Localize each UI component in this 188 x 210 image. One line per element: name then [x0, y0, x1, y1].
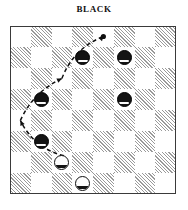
page-title: BLACK [0, 4, 188, 14]
checkers-diagram: BLACK [0, 0, 188, 210]
black-piece-2[interactable] [117, 50, 132, 65]
white-piece-1[interactable] [54, 155, 69, 170]
white-piece-2[interactable] [75, 176, 90, 191]
white-checker-icon [75, 176, 90, 191]
black-piece-3[interactable] [34, 92, 49, 107]
black-checker-icon [34, 92, 49, 107]
black-piece-4[interactable] [117, 92, 132, 107]
black-piece-5[interactable] [34, 134, 49, 149]
pieces-layer [10, 26, 176, 194]
black-piece-1[interactable] [75, 50, 90, 65]
black-checker-icon [75, 50, 90, 65]
black-checker-icon [117, 92, 132, 107]
black-checker-icon [117, 50, 132, 65]
checkers-board[interactable] [10, 26, 176, 194]
white-checker-icon [54, 155, 69, 170]
black-checker-icon [34, 134, 49, 149]
